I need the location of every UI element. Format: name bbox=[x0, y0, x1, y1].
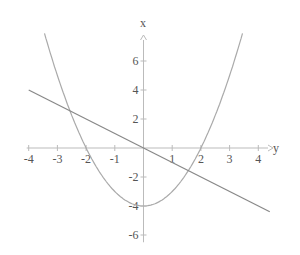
x-tick-label: -4 bbox=[24, 152, 34, 166]
x-tick-label: -3 bbox=[52, 152, 62, 166]
y-tick-label: 6 bbox=[133, 54, 139, 68]
y-tick-label: -4 bbox=[129, 199, 139, 213]
y-tick-label: -6 bbox=[129, 228, 139, 242]
straight-line bbox=[29, 90, 270, 212]
axes bbox=[27, 35, 273, 242]
y-tick-label: -2 bbox=[129, 170, 139, 184]
x-tick-label: 3 bbox=[227, 152, 233, 166]
arrow-up-icon bbox=[141, 35, 147, 40]
vertical-axis-label: x bbox=[140, 16, 146, 30]
y-tick-label: 4 bbox=[133, 83, 139, 97]
x-tick-label: -1 bbox=[110, 152, 120, 166]
x-tick-label: 4 bbox=[255, 152, 261, 166]
chart: -4-3-2-11234642-2-4-6 y x bbox=[0, 0, 300, 255]
y-tick-label: 2 bbox=[133, 112, 139, 126]
series bbox=[29, 33, 270, 211]
horizontal-axis-label: y bbox=[273, 141, 279, 155]
x-tick-label: 2 bbox=[198, 152, 204, 166]
